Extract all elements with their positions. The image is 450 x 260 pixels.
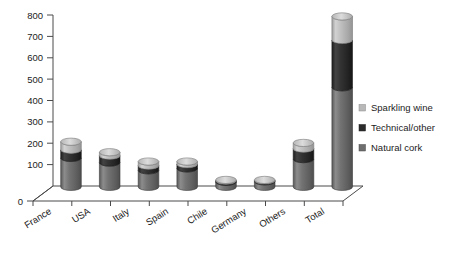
- y-tick-label: 300: [27, 116, 43, 127]
- y-tick-label: 600: [27, 52, 43, 63]
- bar-total: [332, 13, 353, 191]
- x-tick-labels: France USA Italy Spain Chile Germany Oth…: [22, 205, 326, 235]
- legend-item-technical-other[interactable]: Technical/other: [359, 122, 435, 133]
- bar-italy: [138, 158, 159, 191]
- x-tick-label-italy: Italy: [110, 205, 131, 224]
- legend-swatch-sparkling-wine: [359, 105, 366, 112]
- x-tick-label-spain: Spain: [144, 205, 170, 227]
- legend-label-technical-other: Technical/other: [371, 122, 435, 133]
- x-tick-label-others: Others: [257, 205, 287, 230]
- y-tick-label: 500: [27, 74, 43, 85]
- legend-label-sparkling-wine: Sparkling wine: [371, 102, 433, 113]
- legend-swatch-natural-cork: [359, 145, 366, 152]
- legend-swatch-technical-other: [359, 125, 366, 132]
- x-tick-label-germany: Germany: [209, 205, 248, 235]
- y-tick-label: 800: [27, 10, 43, 21]
- y-tick-label: 700: [27, 31, 43, 42]
- y-tick-labels: 800 700 600 500 400 300 200 100 0: [18, 10, 43, 207]
- chart-container: 800 700 600 500 400 300 200 100 0: [0, 0, 450, 260]
- stacked-cylinder-chart: 800 700 600 500 400 300 200 100 0: [0, 0, 450, 260]
- legend-label-natural-cork: Natural cork: [371, 142, 422, 153]
- y-axis-ticks: [27, 15, 53, 201]
- x-tick-label-usa: USA: [70, 205, 93, 225]
- x-tick-label-france: France: [22, 205, 53, 230]
- x-axis-ticks: [33, 201, 343, 206]
- bar-chile: [216, 176, 237, 190]
- x-tick-label-chile: Chile: [185, 205, 209, 226]
- bar-spain: [177, 158, 198, 191]
- legend-item-sparkling-wine[interactable]: Sparkling wine: [359, 102, 433, 113]
- y-tick-label: 0: [18, 196, 23, 207]
- x-tick-label-total: Total: [303, 205, 326, 225]
- legend-item-natural-cork[interactable]: Natural cork: [359, 142, 422, 153]
- y-axis: [33, 15, 53, 201]
- bar-usa: [99, 149, 120, 191]
- chart-legend: Sparkling wine Technical/other Natural c…: [359, 102, 435, 153]
- bar-others: [293, 139, 314, 190]
- bar-germany: [254, 176, 275, 190]
- y-tick-label: 200: [27, 138, 43, 149]
- y-tick-label: 100: [27, 159, 43, 170]
- y-tick-label: 400: [27, 95, 43, 106]
- bar-france: [61, 138, 82, 190]
